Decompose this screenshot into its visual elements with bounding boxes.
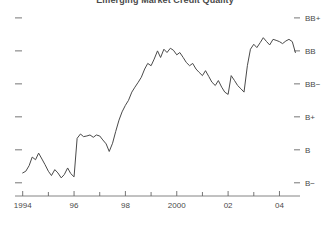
x-axis-label: 98 [121, 201, 130, 210]
chart-plot-area: BB+BBBB−B+BB−1994969820000204 [0, 0, 330, 227]
y-axis-label: BB+ [305, 14, 321, 23]
data-series-line [23, 38, 296, 178]
y-axis-label: B+ [305, 113, 315, 122]
chart-container: Emerging Market Credit Quality BB+BBBB−B… [0, 0, 330, 227]
x-axis-label: 04 [275, 201, 284, 210]
x-axis-label: 2000 [168, 201, 186, 210]
x-axis-label: 1994 [14, 201, 32, 210]
y-axis-label: BB [305, 47, 316, 56]
y-axis-label: BB− [305, 80, 321, 89]
x-axis-label: 02 [224, 201, 233, 210]
y-axis-label: B [305, 146, 310, 155]
y-axis-label: B− [305, 179, 315, 188]
x-axis-label: 96 [70, 201, 79, 210]
